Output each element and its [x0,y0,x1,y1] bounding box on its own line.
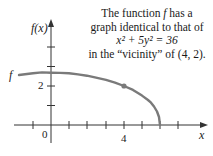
annotation-line-2: graph identical to that of [84,21,210,35]
x-axis-label: x [199,128,204,143]
annotation-line-4: in the “vicinity” of (4, 2). [84,48,210,62]
x-tick-label-4: 4 [121,132,127,144]
y-axis-arrow-icon [48,19,54,27]
origin-label: 0 [42,128,48,140]
point-4-2 [121,83,126,88]
annotation-equation: x² + 5y² = 36 [84,34,210,48]
annotation-line-1: The function f has a [84,7,210,21]
curve-label: f [9,68,12,83]
y-tick-label-2: 2 [38,79,44,91]
annotation: The function f has a graph identical to … [84,7,210,61]
y-axis-label: f(x) [31,21,48,36]
